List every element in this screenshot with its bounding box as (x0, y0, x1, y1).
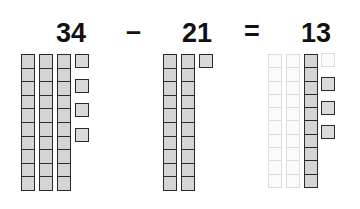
one-cube (75, 54, 89, 68)
one-cube (75, 103, 89, 117)
ten-rod (163, 54, 177, 191)
equals-sign: = (244, 18, 260, 45)
subtrahend-number: 21 (182, 20, 212, 47)
ten-rod (181, 54, 195, 191)
ten-rod (21, 54, 35, 191)
removed-ten-rod (268, 54, 282, 188)
one-cube (321, 101, 335, 115)
one-cube (199, 54, 213, 68)
difference-number: 13 (301, 20, 331, 47)
ten-rod (39, 54, 53, 191)
one-cube (321, 125, 335, 139)
ten-rod (304, 54, 318, 188)
one-cube (75, 79, 89, 93)
ten-rod (57, 54, 71, 191)
removed-one-cube (321, 53, 335, 67)
minus-sign: – (126, 18, 141, 45)
one-cube (321, 77, 335, 91)
one-cube (75, 128, 89, 142)
minuend-number: 34 (56, 20, 86, 47)
removed-ten-rod (286, 54, 300, 188)
